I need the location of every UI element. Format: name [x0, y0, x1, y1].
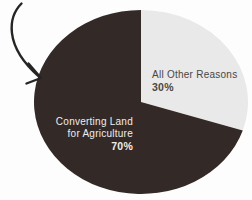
slice-label-text: All Other Reasons — [152, 69, 237, 81]
slice-label-all-other-reasons: All Other Reasons 30% — [152, 69, 237, 93]
slice-pct-text: 30% — [152, 81, 237, 93]
pie-chart-figure: All Other Reasons 30% Converting Land fo… — [0, 0, 252, 200]
pie-chart-svg — [0, 0, 252, 200]
slice-label-text-line1: Converting Land — [56, 116, 133, 128]
slice-label-text-line2: for Agriculture — [56, 128, 133, 140]
slice-pct-text: 70% — [56, 140, 133, 152]
hand-drawn-arrow-icon — [12, 4, 41, 84]
arrow-curve — [12, 4, 40, 78]
slice-label-converting-land-for-agriculture: Converting Land for Agriculture 70% — [56, 116, 133, 153]
